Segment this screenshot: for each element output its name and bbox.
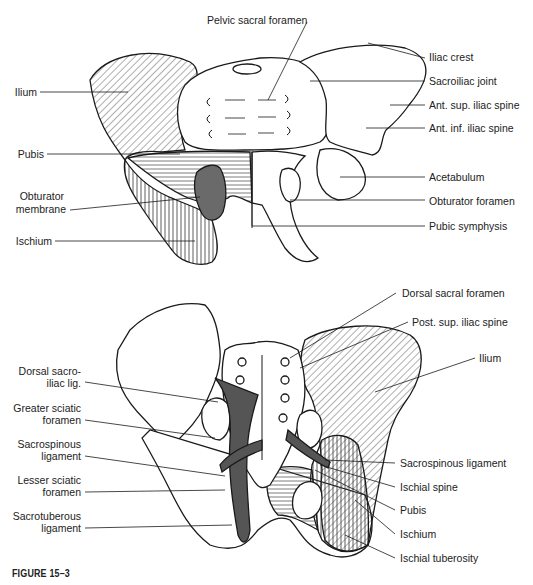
label-ischial-tuberosity: Ischial tuberosity [400, 552, 478, 564]
label-sacroiliac-joint: Sacroiliac joint [429, 75, 497, 87]
label-sacrotuberous-ligament-line2: ligament [0, 522, 81, 534]
label-acetabulum: Acetabulum [429, 171, 484, 183]
label-sacrospinous-ligament-right: Sacrospinous ligament [400, 457, 506, 469]
label-obturator-membrane-line2: membrane [0, 203, 66, 215]
label-ilium-anterior: Ilium [0, 86, 37, 98]
label-greater-sciatic-foramen-line2: foramen [0, 414, 81, 426]
label-dorsal-sacroiliac-lig-line2: iliac lig. [0, 377, 81, 389]
label-lesser-sciatic-foramen-line1: Lesser sciatic [0, 474, 81, 486]
figure-caption: FIGURE 15–3 [12, 567, 70, 579]
label-iliac-crest: Iliac crest [429, 51, 473, 63]
label-sacrotuberous-ligament-line1: Sacrotuberous [0, 510, 81, 522]
anterior-pelvis [90, 45, 426, 264]
label-ant-inf-iliac-spine: Ant. inf. iliac spine [429, 122, 514, 134]
label-ant-sup-iliac-spine: Ant. sup. iliac spine [429, 99, 519, 111]
label-lesser-sciatic-foramen-line2: foramen [0, 486, 81, 498]
label-post-sup-iliac-spine: Post. sup. iliac spine [412, 316, 508, 328]
label-greater-sciatic-foramen-line1: Greater sciatic [0, 402, 81, 414]
label-ischium-posterior: Ischium [400, 528, 436, 540]
label-ischium-anterior: Ischium [0, 235, 52, 247]
label-dorsal-sacral-foramen: Dorsal sacral foramen [402, 287, 505, 299]
label-dorsal-sacroiliac-lig-line1: Dorsal sacro- [0, 365, 81, 377]
label-pelvic-sacral-foramen: Pelvic sacral foramen [207, 14, 307, 26]
label-pubis-posterior: Pubis [400, 504, 426, 516]
label-sacrospinous-ligament-left-line2: ligament [0, 450, 81, 462]
label-sacrospinous-ligament-left-line1: Sacrospinous [0, 438, 81, 450]
label-obturator-foramen: Obturator foramen [429, 195, 515, 207]
label-pubic-symphysis: Pubic symphysis [429, 220, 507, 232]
label-ischial-spine: Ischial spine [400, 481, 458, 493]
label-pubis-anterior: Pubis [0, 148, 44, 160]
label-obturator-membrane-line1: Obturator [0, 190, 64, 202]
label-ilium-posterior: Ilium [479, 352, 501, 364]
